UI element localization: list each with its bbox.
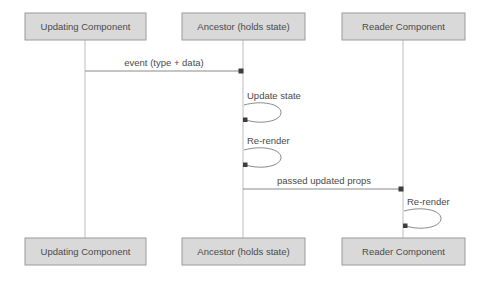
self-message-rerender-ancestor[interactable]: Re-render	[243, 135, 290, 167]
self-message-label-update-state: Update state	[247, 90, 301, 101]
arrowhead-rerender-ancestor	[243, 163, 248, 168]
participant-label-top-updating-component: Updating Component	[41, 21, 131, 32]
arrowhead-rerender-reader	[403, 224, 408, 229]
self-message-label-rerender-reader: Re-render	[407, 196, 450, 207]
participant-boxes-bottom: Updating Component Ancestor (holds state…	[25, 238, 465, 265]
arrowhead-update-state	[243, 118, 248, 123]
message-passed-updated-props[interactable]: passed updated props	[243, 175, 404, 192]
arrowhead-passed-props	[399, 187, 404, 192]
self-message-rerender-reader[interactable]: Re-render	[403, 196, 450, 228]
self-message-loop-rerender-reader	[404, 209, 441, 228]
arrowhead-event	[239, 69, 244, 74]
self-message-loop-rerender-ancestor	[244, 148, 281, 167]
self-message-loop-update-state	[244, 103, 281, 122]
self-message-label-rerender-ancestor: Re-render	[247, 135, 290, 146]
lifelines-group	[85, 40, 403, 238]
message-label-passed-props: passed updated props	[277, 175, 371, 186]
self-message-update-state[interactable]: Update state	[243, 90, 301, 122]
sequence-diagram-svg: Updating Component Ancestor (holds state…	[0, 0, 482, 284]
participant-label-bottom-reader-component: Reader Component	[362, 246, 445, 257]
message-label-event: event (type + data)	[124, 57, 203, 68]
message-event-type-data[interactable]: event (type + data)	[85, 57, 244, 74]
participant-label-bottom-updating-component: Updating Component	[41, 246, 131, 257]
participant-label-top-reader-component: Reader Component	[362, 21, 445, 32]
participant-boxes-top: Updating Component Ancestor (holds state…	[25, 13, 465, 40]
participant-label-bottom-ancestor: Ancestor (holds state)	[197, 246, 289, 257]
participant-label-top-ancestor: Ancestor (holds state)	[197, 21, 289, 32]
sequence-diagram-canvas: Updating Component Ancestor (holds state…	[0, 0, 482, 284]
